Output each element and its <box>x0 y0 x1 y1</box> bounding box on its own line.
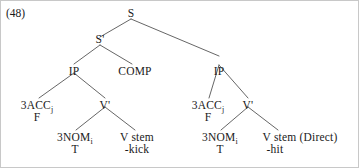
agr-left-label: 3ACC <box>21 99 51 111</box>
subject-left-subscript: i <box>90 137 92 146</box>
node-subject-right: 3NOMi T <box>202 131 238 156</box>
subject-left-label: 3NOM <box>57 131 90 143</box>
agr-right-label: 3ACC <box>192 99 222 111</box>
verb-right-label: V stem (Direct) <box>263 131 338 143</box>
agr-left-gloss: F <box>21 111 54 124</box>
node-verb-right: V stem (Direct) -hit <box>263 131 338 156</box>
verb-left-gloss: -kick <box>120 143 154 156</box>
node-subject-left: 3NOMi T <box>57 131 93 156</box>
agr-right-gloss: F <box>192 111 225 124</box>
node-comp: COMP <box>118 65 151 77</box>
verb-right-gloss: -hit <box>263 143 338 156</box>
node-s: S <box>128 7 135 19</box>
subject-right-subscript: i <box>235 137 237 146</box>
agr-right-subscript: j <box>222 105 224 114</box>
subject-right-gloss: T <box>202 143 238 156</box>
subject-left-gloss: T <box>57 143 93 156</box>
branch-s-to-ip-right <box>131 19 219 56</box>
node-ip-left: IP <box>69 65 80 77</box>
subject-right-label: 3NOM <box>202 131 235 143</box>
node-agr-right: 3ACCj F <box>192 99 225 124</box>
node-verb-left: V stem -kick <box>120 131 154 156</box>
node-agr-left: 3ACCj F <box>21 99 54 124</box>
syntax-tree-figure: (48) S S' IP COMP IP 3ACCj <box>0 0 359 168</box>
example-number: (48) <box>6 7 25 19</box>
branch-s-to-sbar <box>100 19 131 37</box>
agr-left-subscript: j <box>51 105 53 114</box>
branch-sbar-to-ip-left <box>74 45 100 64</box>
node-v-bar-left: V' <box>100 99 111 111</box>
node-v-bar-right: V' <box>243 99 254 111</box>
node-s-bar: S' <box>96 33 105 45</box>
branch-sbar-to-comp <box>100 45 132 64</box>
node-ip-right: IP <box>214 65 225 77</box>
verb-left-label: V stem <box>120 131 154 143</box>
